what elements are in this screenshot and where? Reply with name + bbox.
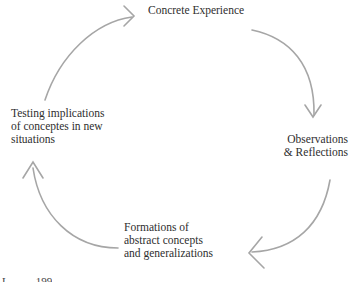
node-text: situations [11,133,104,146]
node-testing-implications: Testing implications of conceptes in new… [11,107,104,146]
node-observations-reflections: Observations & Reflections [284,133,348,159]
node-concrete-experience: Concrete Experience [148,4,244,17]
node-text: abstract concepts [124,234,213,247]
arrow-formations-to-testing [33,168,118,248]
node-text: Observations [284,133,348,146]
arrowhead-concrete-icon [124,6,134,26]
node-formations-abstract-concepts: Formations of abstract concepts and gene… [124,221,213,260]
arrowhead-observations-icon [305,105,321,117]
arrow-concrete-to-observations [252,30,314,115]
node-text: and generalizations [124,247,213,260]
citation-fragment: L 199 [2,274,52,282]
node-text: Testing implications [11,107,104,120]
node-text: & Reflections [284,146,348,159]
node-text: of conceptes in new [11,120,104,133]
arrow-testing-to-concrete [45,17,132,100]
node-text: Concrete Experience [148,4,244,17]
node-text: Formations of [124,221,213,234]
arrow-observations-to-formations [252,180,330,252]
